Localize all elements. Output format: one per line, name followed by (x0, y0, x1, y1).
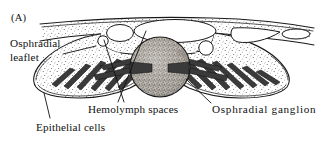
label-hemolymph-spaces: Hemolymph spaces (88, 103, 178, 115)
figure-container: (A) Osphradial leaflet Hemolymph spaces … (0, 0, 318, 143)
label-osphradial-leaflet-line2: leaflet (10, 51, 40, 63)
osphradium-diagram: (A) Osphradial leaflet Hemolymph spaces … (0, 0, 318, 143)
leader-epithelial-cells (44, 93, 50, 118)
hemolymph-cavity-upper-right (282, 29, 310, 39)
hemolymph-cavity-medium-left (107, 25, 134, 42)
label-osphradial-leaflet-line1: Osphradial (10, 37, 61, 49)
panel-label: (A) (11, 12, 26, 24)
label-epithelial-cells: Epithelial cells (36, 121, 105, 133)
hemolymph-cavity-small-right (199, 41, 213, 55)
hemolymph-cavity-small-left (98, 36, 108, 46)
label-osphradial-ganglion: Osphradial ganglion (212, 103, 316, 115)
